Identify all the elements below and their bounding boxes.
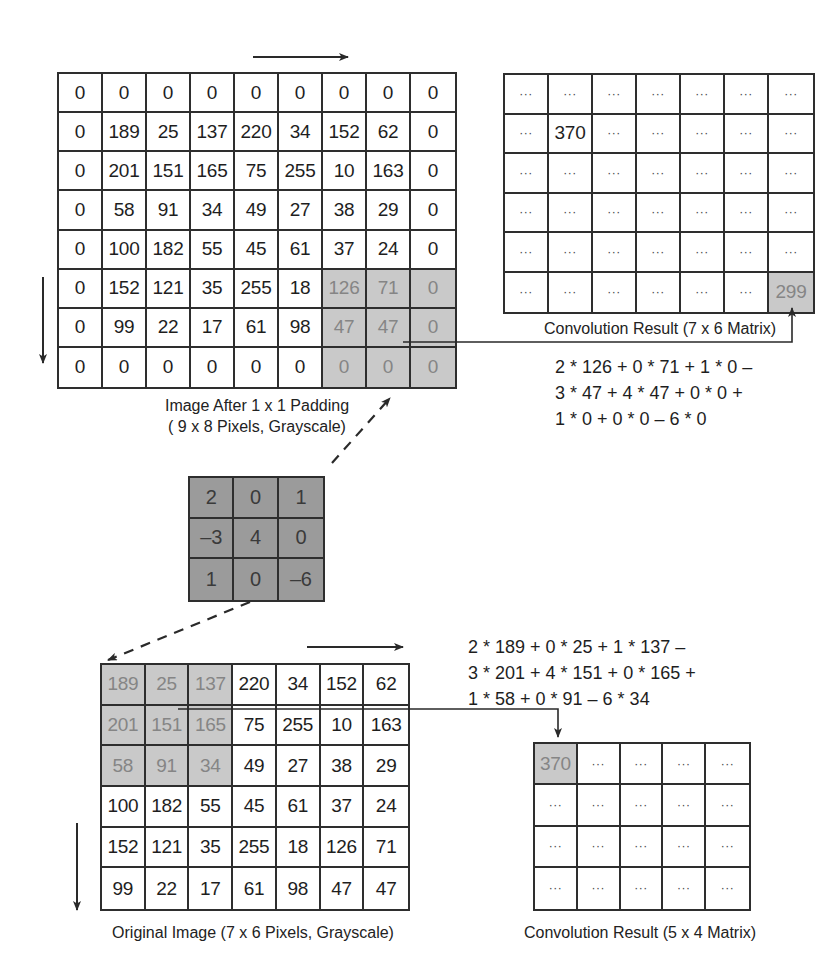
original-image-cell: 152: [102, 828, 146, 869]
padded-image-cell: 49: [235, 191, 279, 230]
padded-result-cell: ···: [725, 194, 769, 234]
kernel-cell: 0: [234, 478, 278, 519]
original-result-cell: ···: [706, 827, 749, 868]
padded-image-cell: 55: [191, 231, 235, 270]
original-image-cell: 61: [233, 868, 277, 909]
padded-image-cell: 0: [59, 231, 103, 270]
original-image-grid: 1892513722034152622011511657525510163589…: [100, 663, 410, 911]
padded-image-cell: 0: [147, 348, 191, 387]
padded-result-caption: Convolution Result (7 x 6 Matrix): [544, 318, 776, 339]
original-image-cell: 47: [364, 868, 408, 909]
original-image-cell: 137: [189, 665, 233, 706]
padded-formula-line: 3 * 47 + 4 * 47 + 0 * 0 +: [555, 380, 752, 406]
padded-image-cell: 255: [279, 152, 323, 191]
padded-result-cell: ···: [769, 75, 813, 115]
padded-image-cell: 0: [367, 74, 411, 113]
original-image-cell: 29: [364, 746, 408, 787]
original-image-cell: 189: [102, 665, 146, 706]
padded-image-cell: 0: [411, 348, 455, 387]
original-formula-line: 3 * 201 + 4 * 151 + 0 * 165 +: [468, 660, 696, 686]
padded-result-cell: ···: [681, 273, 725, 313]
padded-image-cell: 27: [279, 191, 323, 230]
kernel-cell: –6: [279, 559, 323, 600]
padded-image-cell: 0: [191, 348, 235, 387]
padded-image-cell: 58: [103, 191, 147, 230]
original-image-cell: 34: [277, 665, 321, 706]
padded-image-cell: 126: [323, 270, 367, 309]
kernel-cell: 1: [279, 478, 323, 519]
padded-image-cell: 189: [103, 113, 147, 152]
padded-image-cell: 137: [191, 113, 235, 152]
padded-image-cell: 0: [411, 152, 455, 191]
padded-result-cell: ···: [725, 233, 769, 273]
original-result-cell: ···: [535, 785, 578, 826]
kernel-cell: –3: [190, 519, 234, 560]
padded-result-cell: ···: [769, 154, 813, 194]
padded-image-cell: 182: [147, 231, 191, 270]
padded-image-cell: 0: [323, 348, 367, 387]
padded-image-cell: 0: [103, 348, 147, 387]
padded-result-cell: ···: [593, 194, 637, 234]
padded-image-cell: 0: [59, 152, 103, 191]
original-result-cell: ···: [706, 744, 749, 785]
padded-result-cell: ···: [549, 75, 593, 115]
padded-result-cell: ···: [593, 273, 637, 313]
padded-image-cell: 34: [279, 113, 323, 152]
padded-image-cell: 17: [191, 309, 235, 348]
padded-image-cell: 152: [323, 113, 367, 152]
original-formula-line: 1 * 58 + 0 * 91 – 6 * 34: [468, 686, 696, 712]
padded-image-cell: 98: [279, 309, 323, 348]
padded-image-cell: 75: [235, 152, 279, 191]
padded-result-cell: ···: [769, 115, 813, 155]
original-image-cell: 255: [233, 828, 277, 869]
padded-image-cell: 47: [323, 309, 367, 348]
original-image-cell: 25: [146, 665, 190, 706]
padded-image-cell: 22: [147, 309, 191, 348]
padded-result-cell: ···: [637, 75, 681, 115]
padded-formula-line: 2 * 126 + 0 * 71 + 1 * 0 –: [555, 354, 752, 380]
padded-result-cell: ···: [725, 75, 769, 115]
original-result-grid: 370·····································…: [533, 742, 751, 911]
original-image-cell: 151: [146, 706, 190, 747]
kernel-cell: 0: [234, 559, 278, 600]
original-image-cell: 18: [277, 828, 321, 869]
original-result-cell: ···: [578, 827, 621, 868]
padded-result-cell: ···: [505, 273, 549, 313]
kernel-cell: 0: [279, 519, 323, 560]
padded-image-cell: 165: [191, 152, 235, 191]
original-image-cell: 152: [321, 665, 365, 706]
padded-result-cell: ···: [593, 75, 637, 115]
original-image-cell: 62: [364, 665, 408, 706]
padded-result-cell: ···: [637, 233, 681, 273]
original-image-cell: 126: [321, 828, 365, 869]
kernel-cell: 2: [190, 478, 234, 519]
padded-image-caption: Image After 1 x 1 Padding ( 9 x 8 Pixels…: [165, 395, 349, 437]
padded-image-cell: 24: [367, 231, 411, 270]
padded-result-cell: ···: [725, 273, 769, 313]
padded-result-cell: ···: [549, 194, 593, 234]
padded-image-cell: 0: [411, 309, 455, 348]
padded-result-cell: ···: [593, 233, 637, 273]
original-image-cell: 201: [102, 706, 146, 747]
padded-result-cell: ···: [549, 273, 593, 313]
padded-result-cell: ···: [593, 154, 637, 194]
original-result-cell: ···: [621, 868, 664, 909]
original-image-cell: 98: [277, 868, 321, 909]
original-result-cell: ···: [663, 744, 706, 785]
padded-image-cell: 25: [147, 113, 191, 152]
original-result-cell: ···: [621, 785, 664, 826]
original-result-cell: 370: [535, 744, 578, 785]
padded-result-cell: ···: [769, 194, 813, 234]
original-image-caption: Original Image (7 x 6 Pixels, Grayscale): [112, 922, 394, 943]
padded-image-cell: 0: [367, 348, 411, 387]
original-result-cell: ···: [663, 785, 706, 826]
padded-result-cell: ···: [637, 115, 681, 155]
original-image-cell: 100: [102, 787, 146, 828]
original-image-cell: 255: [277, 706, 321, 747]
padded-image-grid: 0000000000189251372203415262002011511657…: [57, 72, 457, 389]
padded-result-cell: ···: [769, 233, 813, 273]
original-result-cell: ···: [663, 827, 706, 868]
original-image-cell: 58: [102, 746, 146, 787]
padded-result-cell: ···: [681, 115, 725, 155]
original-image-cell: 45: [233, 787, 277, 828]
